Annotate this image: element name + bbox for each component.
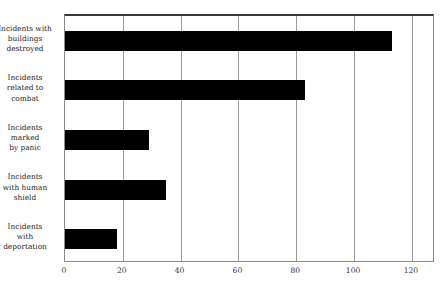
x-tick-label: 60 bbox=[217, 266, 257, 275]
bar-chart-figure: Incidents withbuildingsdestroyedIncident… bbox=[0, 0, 448, 293]
category-label-line: deportation bbox=[0, 242, 56, 252]
category-label-line: related to bbox=[0, 83, 56, 93]
bar-row bbox=[65, 130, 435, 150]
bar-row bbox=[65, 180, 435, 200]
category-label: Incidentsrelated tocombat bbox=[0, 73, 56, 104]
bar bbox=[65, 80, 305, 100]
bar bbox=[65, 180, 166, 200]
category-label-line: Incidents bbox=[0, 73, 56, 83]
bar bbox=[65, 130, 149, 150]
category-label: Incidentswithdeportation bbox=[0, 222, 56, 253]
category-label-line: with bbox=[0, 232, 56, 242]
category-label-line: by panic bbox=[0, 143, 56, 153]
plot-area bbox=[64, 14, 434, 262]
x-tick-label: 80 bbox=[275, 266, 315, 275]
category-label-line: Incidents bbox=[0, 222, 56, 232]
bar-row bbox=[65, 31, 435, 51]
category-label: Incidents withbuildingsdestroyed bbox=[0, 24, 56, 55]
category-label-line: buildings bbox=[0, 34, 56, 44]
category-label-line: shield bbox=[0, 193, 56, 203]
category-label: Incidentsmarkedby panic bbox=[0, 123, 56, 154]
category-label: Incidentswith humanshield bbox=[0, 172, 56, 203]
bar-row bbox=[65, 229, 435, 249]
x-tick-label: 100 bbox=[333, 266, 373, 275]
x-tick-label: 40 bbox=[160, 266, 200, 275]
category-label-line: Incidents bbox=[0, 172, 56, 182]
category-label-line: marked bbox=[0, 133, 56, 143]
bar-row bbox=[65, 80, 435, 100]
bar bbox=[65, 31, 392, 51]
x-tick-label: 20 bbox=[102, 266, 142, 275]
category-label-line: with human bbox=[0, 183, 56, 193]
category-label-line: Incidents bbox=[0, 123, 56, 133]
category-label-line: Incidents with bbox=[0, 24, 56, 34]
category-label-line: destroyed bbox=[0, 44, 56, 54]
bar bbox=[65, 229, 117, 249]
x-tick-label: 0 bbox=[44, 266, 84, 275]
x-tick-label: 120 bbox=[391, 266, 431, 275]
category-label-line: combat bbox=[0, 94, 56, 104]
